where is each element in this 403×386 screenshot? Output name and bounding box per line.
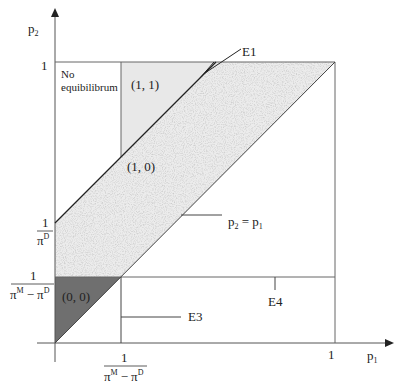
- svg-text:πD: πD: [37, 232, 50, 248]
- y-tick-1-over-piM-minus-piD: 1 πM−πD: [10, 268, 54, 302]
- diagonal-label: p2 = p1: [228, 214, 263, 231]
- y-axis-label: p2: [28, 21, 39, 38]
- y-axis-arrow-icon: [51, 8, 59, 17]
- e3-label: E3: [188, 309, 202, 324]
- svg-text:πM−πD: πM−πD: [104, 368, 144, 384]
- region-1-0-label: (1, 0): [127, 159, 155, 174]
- e4-label: E4: [268, 294, 283, 309]
- x-tick-1: 1: [328, 347, 335, 362]
- y-tick-1: 1: [41, 58, 48, 73]
- svg-text:1: 1: [121, 350, 128, 365]
- x-tick-1-over-piM-minus-piD: 1 πM−πD: [104, 350, 147, 384]
- equilibrium-diagram: p2 p1 1 1 1 πD 1 πM−πD 1 πM−πD No equibi…: [0, 0, 403, 386]
- x-axis-label: p1: [367, 348, 378, 365]
- e1-label: E1: [242, 44, 256, 59]
- svg-text:1: 1: [30, 268, 37, 283]
- no-equilibrium-label-line1: No: [61, 68, 75, 80]
- svg-text:1: 1: [42, 215, 49, 230]
- region-0-0-label: (0, 0): [62, 289, 90, 304]
- y-tick-1-over-piD: 1 πD: [37, 215, 53, 248]
- x-axis-arrow-icon: [385, 339, 394, 347]
- no-equilibrium-label-line2: equibilibrum: [61, 81, 118, 93]
- region-1-1-label: (1, 1): [131, 77, 159, 92]
- stipple-texture: [55, 62, 335, 277]
- svg-text:πM−πD: πM−πD: [10, 286, 50, 302]
